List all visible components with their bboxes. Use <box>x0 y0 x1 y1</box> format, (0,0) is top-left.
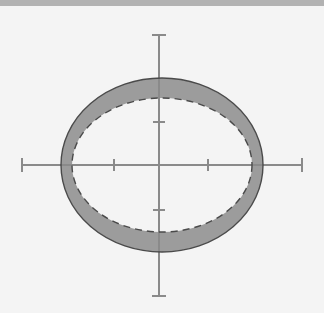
ellipse-lune-figure <box>0 0 324 313</box>
coordinate-axes-group <box>22 35 302 296</box>
diagram-canvas <box>0 0 324 313</box>
